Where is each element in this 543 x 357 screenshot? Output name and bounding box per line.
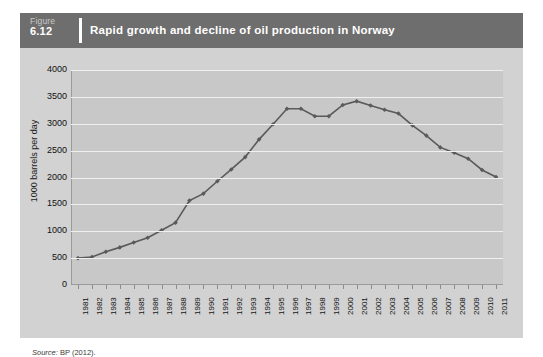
x-tick-label: 1996 <box>291 297 300 315</box>
x-tick-label: 2006 <box>430 297 439 315</box>
plot-area <box>71 70 503 285</box>
x-tick-label: 1986 <box>151 297 160 315</box>
x-tick <box>203 285 204 289</box>
x-tick-label: 2002 <box>374 297 383 315</box>
y-tick-label: 2500 <box>27 145 67 155</box>
x-tick-label: 1999 <box>332 297 341 315</box>
y-tick-label: 500 <box>27 252 67 262</box>
x-tick-label: 1991 <box>221 297 230 315</box>
x-tick <box>231 285 232 289</box>
x-tick-label: 1993 <box>249 297 258 315</box>
figure-title: Rapid growth and decline of oil producti… <box>90 24 395 36</box>
y-tick-label: 2000 <box>27 172 67 182</box>
x-tick-label: 2010 <box>486 297 495 315</box>
x-tick-label: 1992 <box>235 297 244 315</box>
x-tick-label: 1994 <box>263 297 272 315</box>
x-tick-label: 1981 <box>81 297 90 315</box>
source-note: Source: BP (2012). <box>32 348 96 357</box>
figure-header: Figure 6.12 Rapid growth and decline of … <box>20 13 523 48</box>
x-tick <box>189 285 190 289</box>
gridline <box>71 178 503 179</box>
figure-number-block: Figure 6.12 <box>30 17 76 45</box>
x-tick <box>440 285 441 289</box>
x-tick <box>301 285 302 289</box>
data-point-marker <box>368 103 373 108</box>
x-tick-label: 1995 <box>277 297 286 315</box>
data-point-marker <box>117 245 122 250</box>
figure-number: 6.12 <box>30 26 76 38</box>
x-tick <box>315 285 316 289</box>
plot-wrapper: 1000 barrels per day 0500100015002000250… <box>20 48 523 338</box>
x-tick <box>259 285 260 289</box>
x-tick-label: 1985 <box>137 297 146 315</box>
data-point-marker <box>104 249 109 254</box>
x-tick-label: 1997 <box>304 297 313 315</box>
x-tick-label: 2004 <box>402 297 411 315</box>
x-tick-label: 1987 <box>165 297 174 315</box>
x-tick-label: 2003 <box>388 297 397 315</box>
x-tick <box>371 285 372 289</box>
x-tick <box>162 285 163 289</box>
x-tick <box>357 285 358 289</box>
x-tick-label: 1990 <box>207 297 216 315</box>
gridline <box>71 97 503 98</box>
x-tick <box>454 285 455 289</box>
header-divider <box>79 18 82 43</box>
y-tick-label: 1000 <box>27 225 67 235</box>
figure-container: Figure 6.12 Rapid growth and decline of … <box>20 13 523 338</box>
y-tick-label: 0 <box>27 279 67 289</box>
x-tick-label: 2009 <box>472 297 481 315</box>
y-tick-label: 1500 <box>27 198 67 208</box>
x-tick-label: 1982 <box>95 297 104 315</box>
x-tick-label: 1984 <box>123 297 132 315</box>
y-tick-label: 3000 <box>27 118 67 128</box>
x-tick <box>496 285 497 289</box>
data-point-marker <box>131 240 136 245</box>
gridline <box>71 70 503 71</box>
y-tick-label: 4000 <box>27 64 67 74</box>
x-tick-label: 2008 <box>458 297 467 315</box>
x-tick <box>106 285 107 289</box>
source-prefix: Source: <box>32 348 58 357</box>
x-tick <box>329 285 330 289</box>
x-tick-label: 1998 <box>318 297 327 315</box>
x-tick <box>217 285 218 289</box>
x-tick <box>120 285 121 289</box>
gridline <box>71 124 503 125</box>
x-tick <box>176 285 177 289</box>
x-tick <box>245 285 246 289</box>
gridline <box>71 204 503 205</box>
x-tick-label: 2005 <box>416 297 425 315</box>
source-text: BP (2012). <box>60 348 96 357</box>
x-tick-label: 1989 <box>193 297 202 315</box>
x-tick-label: 1988 <box>179 297 188 315</box>
x-tick-label: 2011 <box>500 298 509 315</box>
x-tick <box>273 285 274 289</box>
x-tick <box>482 285 483 289</box>
x-tick-label: 2007 <box>444 297 453 315</box>
x-tick <box>134 285 135 289</box>
y-tick-label: 3500 <box>27 91 67 101</box>
x-tick <box>148 285 149 289</box>
x-tick <box>287 285 288 289</box>
x-tick <box>398 285 399 289</box>
x-tick-label: 2001 <box>360 297 369 315</box>
gridline <box>71 258 503 259</box>
x-tick <box>92 285 93 289</box>
gridline <box>71 151 503 152</box>
x-tick-label: 1983 <box>109 297 118 315</box>
x-tick <box>426 285 427 289</box>
x-tick <box>468 285 469 289</box>
x-tick <box>385 285 386 289</box>
gridline <box>71 231 503 232</box>
x-tick <box>78 285 79 289</box>
data-point-marker <box>382 107 387 112</box>
x-tick <box>412 285 413 289</box>
x-tick <box>343 285 344 289</box>
data-point-marker <box>354 99 359 104</box>
x-tick-label: 2000 <box>346 297 355 315</box>
